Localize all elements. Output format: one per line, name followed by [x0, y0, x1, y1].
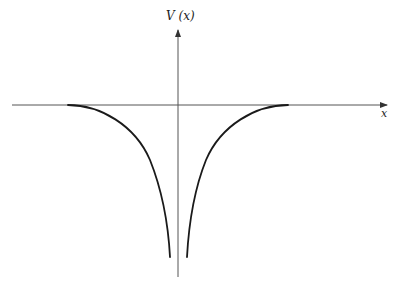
potential-curve-left: [68, 105, 170, 257]
y-axis-label: V (x): [166, 9, 195, 23]
x-axis-label: x: [381, 107, 388, 120]
potential-diagram: V (x) x: [0, 0, 397, 285]
potential-curve-right: [187, 105, 288, 257]
